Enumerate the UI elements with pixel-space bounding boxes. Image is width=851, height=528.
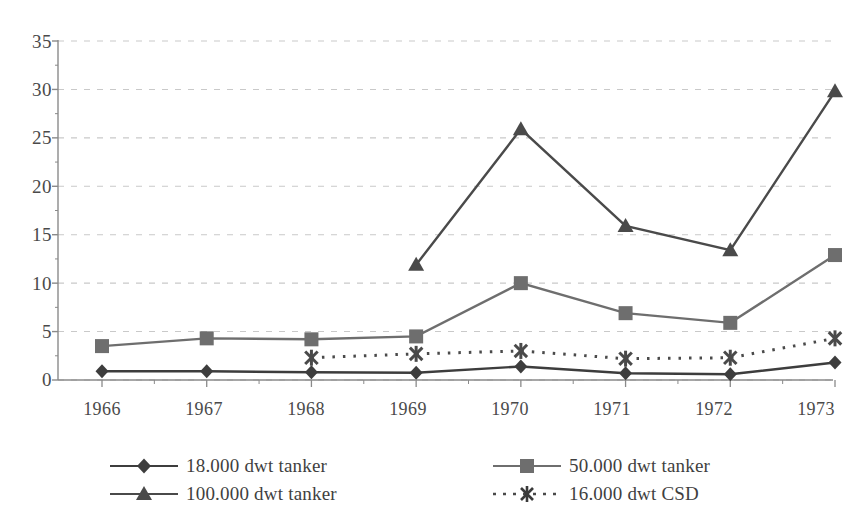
- axes: [52, 40, 835, 387]
- gridlines: [58, 41, 833, 380]
- diamond-marker-icon: [108, 454, 180, 478]
- square-marker-icon: [491, 454, 563, 478]
- legend-item-100k-tanker[interactable]: 100.000 dwt tanker: [108, 480, 337, 508]
- legend-item-label: 16.000 dwt CSD: [563, 483, 699, 505]
- legend-item-18k-tanker[interactable]: 18.000 dwt tanker: [108, 452, 327, 480]
- data-series: [95, 83, 843, 381]
- legend-item-16k-csd[interactable]: 16.000 dwt CSD: [491, 480, 699, 508]
- plot-area: [0, 0, 851, 528]
- line-chart: 35 30 25 20 15 10 5 0 1966 1967 1968 196…: [0, 0, 851, 528]
- chart-legend: 18.000 dwt tanker 100.000 dwt tanker 50.…: [108, 452, 748, 514]
- legend-item-label: 18.000 dwt tanker: [180, 455, 327, 477]
- legend-item-label: 100.000 dwt tanker: [180, 483, 337, 505]
- asterisk-marker-icon: [491, 482, 563, 506]
- legend-item-50k-tanker[interactable]: 50.000 dwt tanker: [491, 452, 710, 480]
- triangle-marker-icon: [108, 482, 180, 506]
- legend-item-label: 50.000 dwt tanker: [563, 455, 710, 477]
